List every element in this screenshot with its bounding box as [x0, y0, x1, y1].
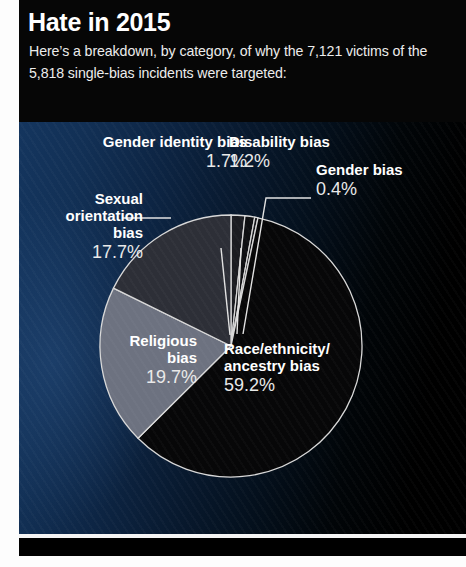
label-race-bias-pct: 59.2%: [224, 375, 379, 396]
header: Hate in 2015 Here’s a breakdown, by cate…: [19, 0, 466, 122]
label-race-bias-line2: ancestry bias: [224, 357, 320, 374]
label-gender-identity-bias-pct: 1.7%: [51, 151, 247, 172]
label-gender-identity-bias-name: Gender identity bias: [103, 133, 247, 150]
label-race-bias-line1: Race/ethnicity/: [224, 340, 330, 357]
label-disability-bias-name: Disability bias: [229, 133, 330, 150]
infographic-frame: Hate in 2015 Here’s a breakdown, by cate…: [19, 0, 466, 556]
label-sexual-orientation-bias-line2: orientation: [66, 207, 144, 224]
page-title: Hate in 2015: [28, 9, 170, 35]
label-sexual-orientation-bias-line3: bias: [113, 224, 143, 241]
label-gender-identity-bias: Gender identity bias 1.7%: [51, 133, 247, 172]
chart-panel: Gender identity bias 1.7% Disability bia…: [19, 122, 466, 534]
infographic-page: Hate in 2015 Here’s a breakdown, by cate…: [0, 0, 466, 567]
label-race-ethnicity-ancestry-bias: Race/ethnicity/ ancestry bias 59.2%: [224, 340, 379, 396]
label-religious-bias-line1: Religious: [129, 332, 197, 349]
label-religious-bias-pct: 19.7%: [101, 367, 197, 388]
label-sexual-orientation-bias-line1: Sexual: [95, 190, 143, 207]
bottom-band: [19, 538, 466, 556]
label-sexual-orientation-bias-pct: 17.7%: [31, 242, 143, 263]
label-sexual-orientation-bias: Sexual orientation bias 17.7%: [31, 190, 143, 263]
label-gender-bias-pct: 0.4%: [316, 179, 456, 200]
label-gender-bias: Gender bias 0.4%: [316, 161, 456, 200]
label-religious-bias: Religious bias 19.7%: [101, 332, 197, 388]
header-subtitle: Here’s a breakdown, by category, of why …: [29, 41, 429, 84]
label-gender-bias-name: Gender bias: [316, 161, 403, 178]
label-religious-bias-line2: bias: [167, 349, 197, 366]
